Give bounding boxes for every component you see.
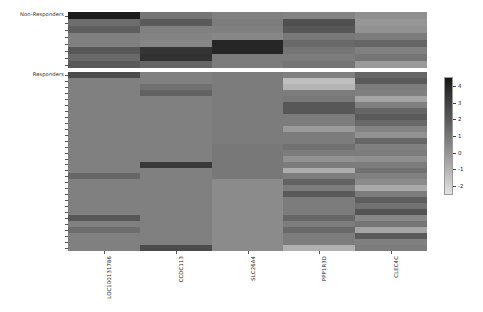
heatmap-cell: [140, 12, 212, 19]
x-tick: [104, 251, 105, 254]
colorbar-tick: [453, 136, 456, 137]
x-axis-label: LOC100131786: [106, 256, 112, 299]
heatmap-cell: [355, 40, 427, 47]
heatmap-cell: [140, 40, 212, 47]
colorbar-tick: [453, 153, 456, 154]
heatmap-cell: [140, 19, 212, 26]
heatmap-plot-area: [68, 12, 427, 251]
heatmap-cell: [68, 33, 140, 40]
heatmap-cell: [283, 61, 355, 68]
x-tick: [391, 251, 392, 254]
heatmap-cell: [212, 61, 284, 68]
heatmap-cell: [283, 54, 355, 61]
colorbar-tick: [453, 186, 456, 187]
colorbar-gradient: [444, 77, 453, 195]
heatmap-row: [68, 40, 427, 47]
colorbar-tick-label: -1: [458, 166, 463, 172]
colorbar-tick-label: 3: [458, 100, 461, 106]
heatmap-cell: [68, 19, 140, 26]
colorbar-tick: [453, 169, 456, 170]
heatmap-cell: [355, 19, 427, 26]
heatmap-cell: [68, 26, 140, 33]
x-axis-label: CLEC4C: [393, 256, 399, 278]
heatmap-block-responders: [68, 72, 427, 251]
heatmap-cell: [140, 61, 212, 68]
heatmap-row: [68, 54, 427, 61]
heatmap-cell: [355, 26, 427, 33]
heatmap-cell: [283, 19, 355, 26]
colorbar: 43210-1-2: [444, 77, 478, 195]
x-axis-ticks: [68, 251, 427, 255]
colorbar-tick: [453, 86, 456, 87]
heatmap-cell: [283, 47, 355, 54]
heatmap-row: [68, 47, 427, 54]
group-label-non-responders: Non-Responders: [18, 11, 64, 17]
heatmap-cell: [355, 47, 427, 54]
heatmap-row: [68, 33, 427, 40]
heatmap-cell: [283, 26, 355, 33]
heatmap-cell: [283, 33, 355, 40]
heatmap-cell: [283, 12, 355, 19]
heatmap-cell: [212, 26, 284, 33]
heatmap-cell: [212, 19, 284, 26]
x-tick: [319, 251, 320, 254]
colorbar-tick-label: -2: [458, 183, 463, 189]
heatmap-row: [68, 61, 427, 68]
heatmap-row: [68, 12, 427, 19]
heatmap-cell: [68, 12, 140, 19]
heatmap-cell: [68, 54, 140, 61]
heatmap-cell: [355, 12, 427, 19]
colorbar-tick-label: 1: [458, 133, 461, 139]
x-axis-label: CCDC113: [178, 256, 184, 282]
heatmap-cell: [140, 54, 212, 61]
group-label-responders: Responders: [18, 71, 64, 77]
heatmap-cell: [140, 47, 212, 54]
heatmap-cell: [212, 12, 284, 19]
x-axis-label: PPP1R3D: [321, 256, 327, 281]
heatmap-cell: [68, 40, 140, 47]
heatmap-cell: [212, 40, 284, 47]
colorbar-tick: [453, 103, 456, 104]
heatmap-cell: [355, 61, 427, 68]
x-axis-label: SLC26A4: [250, 256, 256, 281]
heatmap-figure: Non-Responders Responders LOC100131786CC…: [0, 0, 483, 312]
heatmap-cell: [212, 47, 284, 54]
heatmap-row: [68, 19, 427, 26]
colorbar-tick-label: 0: [458, 150, 461, 156]
heatmap-block-non-responders: [68, 12, 427, 68]
x-tick: [248, 251, 249, 254]
heatmap-cell: [140, 26, 212, 33]
heatmap-cell: [355, 33, 427, 40]
heatmap-cell: [212, 33, 284, 40]
colorbar-tick-label: 2: [458, 116, 461, 122]
heatmap-cell: [212, 54, 284, 61]
heatmap-row: [68, 26, 427, 33]
x-tick: [176, 251, 177, 254]
heatmap-cell: [68, 61, 140, 68]
heatmap-cell: [355, 54, 427, 61]
colorbar-tick-label: 4: [458, 83, 461, 89]
heatmap-cell: [283, 40, 355, 47]
colorbar-tick: [453, 119, 456, 120]
heatmap-cell: [68, 47, 140, 54]
heatmap-cell: [140, 33, 212, 40]
